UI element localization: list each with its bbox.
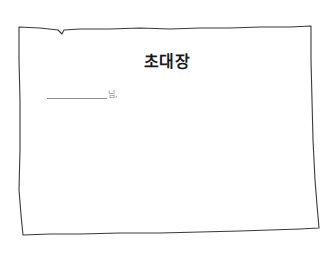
recipient-name-blank — [47, 98, 107, 99]
invitation-title: 초대장 — [0, 48, 334, 72]
hand-drawn-card-border — [0, 0, 334, 256]
recipient-honorific-suffix: 님, — [108, 88, 118, 99]
